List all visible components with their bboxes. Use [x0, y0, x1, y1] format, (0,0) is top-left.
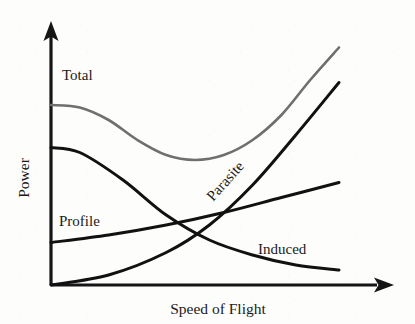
power-vs-speed-chart: Total Profile Parasite Induced Power Spe…: [0, 0, 415, 324]
y-axis-title: Power: [15, 157, 32, 197]
curve-label-total: Total: [62, 67, 93, 83]
x-axis-title: Speed of Flight: [170, 300, 266, 317]
curve-label-profile: Profile: [59, 213, 100, 229]
figure-container: Total Profile Parasite Induced Power Spe…: [0, 0, 415, 324]
curve-total: [51, 48, 339, 161]
curve-label-induced: Induced: [258, 241, 307, 257]
